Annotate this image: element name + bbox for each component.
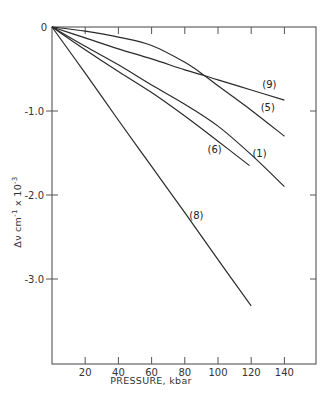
pressure-shift-chart: 204060801001201400-1.0-2.0-3.0 (9)(5)(1)… (0, 0, 336, 407)
curve-label-5: (5) (261, 102, 275, 113)
y-axis-title-main: Δν cm (12, 217, 23, 248)
plot-border (52, 27, 316, 364)
y-axis-title: Δν cm-1 x 10-3 (11, 176, 23, 247)
y-tick-label: -2.0 (24, 190, 44, 201)
curve-label-9: (9) (262, 79, 276, 90)
svg-text:Δν cm-1 x 10-3: Δν cm-1 x 10-3 (11, 176, 23, 247)
y-axis-title-sup1: -1 (11, 209, 19, 217)
x-tick-label: 20 (79, 367, 92, 378)
curves (52, 27, 284, 306)
x-tick-label: 120 (242, 367, 261, 378)
x-tick-label: 100 (208, 367, 227, 378)
y-tick-label: -3.0 (24, 274, 44, 285)
curve-label-1: (1) (252, 148, 266, 159)
y-tick-label: 0 (41, 22, 47, 33)
x-tick-label: 140 (275, 367, 294, 378)
x-axis-title: PRESSURE, kbar (110, 375, 191, 386)
curve-label-6: (6) (208, 144, 222, 155)
curve-9 (52, 27, 284, 100)
y-axis-title-sup2: -3 (11, 176, 19, 184)
axis-ticks: 204060801001201400-1.0-2.0-3.0 (24, 22, 316, 378)
plot-frame (52, 27, 316, 364)
curve-8 (52, 27, 251, 306)
curve-5 (52, 27, 284, 136)
curve-label-8: (8) (189, 210, 203, 221)
y-axis-title-mid: x 10 (12, 184, 23, 209)
curve-labels: (9)(5)(1)(6)(8) (189, 79, 276, 220)
y-tick-label: -1.0 (24, 106, 44, 117)
